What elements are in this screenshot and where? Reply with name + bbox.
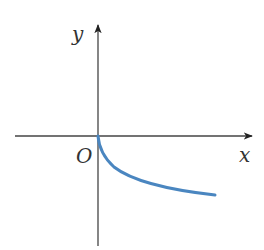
origin-label: O (76, 144, 92, 168)
y-axis-label: y (71, 22, 84, 46)
function-curve (98, 136, 215, 195)
graph-figure: y x O (0, 0, 264, 250)
x-axis-label: x (239, 143, 250, 167)
